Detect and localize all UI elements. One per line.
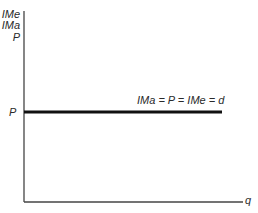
y-axis-label-p: P: [0, 32, 20, 43]
diagram-canvas: IMe IMa P P IMa = P = IMe = d q: [0, 0, 258, 213]
diagram-svg: [0, 0, 258, 213]
y-axis-label-ima: IMa: [0, 20, 20, 31]
price-level-label: P: [9, 107, 16, 118]
demand-line-label: IMa = P = IMe = d: [137, 95, 224, 106]
x-axis-label: q: [245, 195, 251, 206]
